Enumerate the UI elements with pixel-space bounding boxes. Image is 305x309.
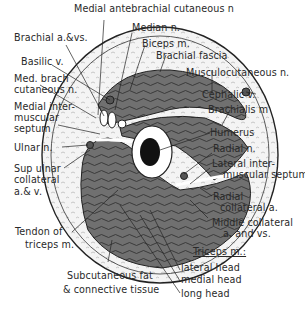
- label-subcutaneous-fat-1: Subcutaneous fat: [67, 270, 153, 281]
- label-cephalic-v: Cephalic v.: [202, 89, 255, 100]
- label-medial-antebrachial-cutaneous-n: Medial antebrachial cutaneous n: [74, 3, 234, 14]
- label-middle-collateral-1: Middle collateral: [212, 217, 293, 228]
- label-humerus: Humerus: [210, 127, 254, 138]
- label-ulnar-n: Ulnar n.: [14, 142, 53, 153]
- label-med-brach-cutaneous-1: Med. brach: [14, 73, 69, 84]
- label-sup-ulnar-collateral-2: collateral: [14, 174, 60, 185]
- label-brachial-fascia: Brachial fascia: [156, 50, 228, 61]
- label-subcutaneous-fat-2: & connective tissue: [63, 284, 159, 295]
- label-radial-collateral-1: Radial: [213, 191, 243, 202]
- label-musculocutaneous-n: Musculocutaneous n.: [186, 67, 289, 78]
- label-basilic-v: Basilic v.: [21, 56, 64, 67]
- label-middle-collateral-2: a. and vs.: [223, 228, 271, 239]
- label-med-brach-cutaneous-2: cutaneous n.: [14, 84, 77, 95]
- label-triceps-m: Triceps m.:: [193, 246, 246, 257]
- label-medial-intermuscular-septum-3: septum: [14, 123, 51, 134]
- label-lateral-intermuscular-septum-1: Lateral inter-: [212, 158, 275, 169]
- label-radial-n: Radial n.: [213, 143, 256, 154]
- label-biceps-m: Biceps m.: [142, 38, 190, 49]
- label-tendon-triceps-1: Tendon of: [15, 226, 62, 237]
- label-sup-ulnar-collateral-3: a.& v.: [14, 186, 42, 197]
- label-brachial-a-vs: Brachial a.&vs.: [14, 32, 88, 43]
- label-radial-collateral-2: collateral a.: [220, 202, 278, 213]
- label-lateral-intermuscular-septum-2: muscular septum: [223, 169, 305, 180]
- label-medial-intermuscular-septum-2: muscular: [14, 112, 59, 123]
- label-sup-ulnar-collateral-1: Sup ulnar: [14, 163, 61, 174]
- arm-cross-section-diagram: Medial antebrachial cutaneous n Median n…: [0, 0, 305, 309]
- label-medial-head: medial head: [181, 274, 242, 285]
- radial-nerve: [181, 173, 188, 180]
- label-tendon-triceps-2: triceps m.: [25, 239, 74, 250]
- label-lateral-head: lateral head: [181, 262, 240, 273]
- label-median-n: Median n.: [132, 22, 180, 33]
- label-medial-intermuscular-septum-1: Medial inter-: [14, 101, 75, 112]
- label-brachialis-m: Brachialis m: [208, 104, 268, 115]
- brachial-vessel: [100, 110, 108, 126]
- label-long-head: long head: [181, 288, 230, 299]
- marrow: [140, 138, 160, 166]
